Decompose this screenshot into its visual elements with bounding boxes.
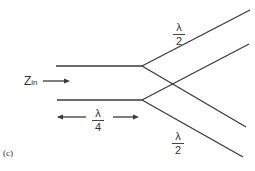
transmission-line-diagram: Zin λ 4 λ 2 λ 2 (c) [0,0,255,171]
branch-top-length-label: λ 2 [173,22,185,47]
branch-line [142,100,243,157]
input-impedance-label: Zin [24,75,38,87]
branch-line [142,66,246,127]
panel-label: (c) [3,148,13,158]
branch-bottom-length-label: λ 2 [172,131,184,156]
branch-line [142,44,249,100]
feed-length-label: λ 4 [92,108,104,133]
line-drawing [0,0,255,171]
branch-line [142,10,250,66]
